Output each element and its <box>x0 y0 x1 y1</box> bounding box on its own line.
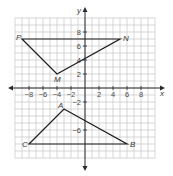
x-tick-label: 4 <box>111 90 115 99</box>
y-tick-label: 8 <box>77 28 81 37</box>
x-axis-left-arrow-icon <box>8 86 13 91</box>
y-tick-label: 2 <box>77 70 81 79</box>
x-tick-label: −4 <box>53 90 62 99</box>
vertex-label-P: P <box>16 33 22 42</box>
y-axis-down-arrow-icon <box>83 166 88 171</box>
vertex-label-M: M <box>54 75 61 84</box>
x-tick-label: 2 <box>97 90 101 99</box>
vertex-label-N: N <box>123 34 129 43</box>
vertex-label-C: C <box>22 140 28 149</box>
x-tick-label: 8 <box>139 90 143 99</box>
x-tick-label: 6 <box>125 90 129 99</box>
y-axis-up-arrow-icon <box>83 7 88 12</box>
vertex-label-B: B <box>130 140 136 149</box>
y-tick-label: −2 <box>72 98 81 107</box>
vertex-label-A: A <box>57 101 63 110</box>
x-tick-label: −6 <box>39 90 48 99</box>
x-axis-label: x <box>159 89 165 98</box>
y-tick-label: −6 <box>72 126 81 135</box>
x-tick-label: −8 <box>25 90 34 99</box>
y-axis-label: y <box>76 6 82 15</box>
y-tick-label: 6 <box>77 42 81 51</box>
coordinate-plane: −8−6−4−224688642−2−6 PNMABC x y <box>0 0 173 176</box>
